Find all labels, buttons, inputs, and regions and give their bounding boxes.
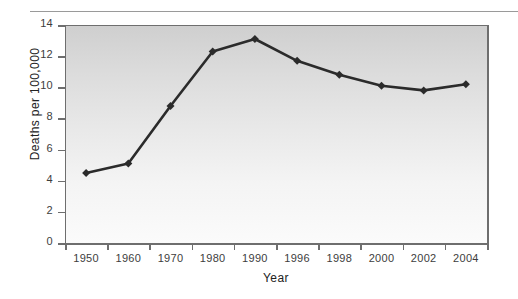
- data-point-marker: [462, 80, 470, 88]
- series-line: [86, 39, 466, 173]
- data-point-marker: [82, 169, 90, 177]
- x-axis-title: Year: [65, 271, 487, 285]
- data-point-marker: [420, 86, 428, 94]
- data-point-marker: [335, 71, 343, 79]
- data-point-marker: [378, 82, 386, 90]
- chart-figure: 02468101214 1950196019701980199019961998…: [0, 0, 518, 299]
- y-axis-title: Deaths per 100,000: [28, 24, 42, 184]
- data-series-layer: [0, 0, 518, 299]
